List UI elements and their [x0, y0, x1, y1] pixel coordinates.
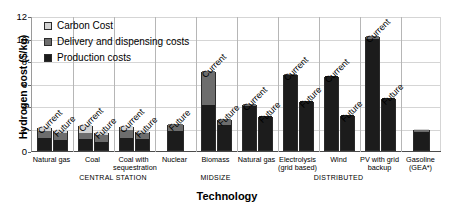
x-axis-title: Technology — [0, 190, 454, 202]
segment-production — [325, 76, 338, 150]
y-tick-label-10: 10 — [8, 35, 27, 44]
segment-production — [38, 138, 51, 150]
category-separator — [196, 17, 197, 152]
legend-item-carbon: Carbon Cost — [44, 20, 189, 31]
group-label-distributed: DISTRIBUTED — [236, 174, 441, 181]
segment-production — [284, 75, 297, 150]
production-swatch-icon — [44, 54, 52, 62]
category-separator — [278, 17, 279, 152]
bar-wind-current — [324, 77, 339, 151]
category-separator — [237, 17, 238, 152]
segment-carbon — [414, 129, 429, 130]
legend-item-delivery: Delivery and dispensing costs — [44, 36, 189, 47]
category-label-line1: Natural gas — [236, 156, 277, 164]
category-label-line1: Coal — [72, 156, 113, 164]
category-label-biomass: Biomass — [195, 156, 236, 164]
category-label-line2: sequestration — [113, 164, 154, 172]
segment-production — [136, 139, 149, 150]
y-tick-label-2: 2 — [8, 125, 27, 134]
legend: Carbon Cost Delivery and dispensing cost… — [44, 20, 189, 68]
category-label-coal: Coal — [72, 156, 113, 164]
bar-gasoline-gea- — [413, 130, 430, 151]
category-separator — [360, 17, 361, 152]
bar-pv-with-grid-backup-current — [365, 37, 380, 151]
legend-label-carbon: Carbon Cost — [57, 20, 113, 31]
category-label-line2: backup — [359, 164, 400, 172]
segment-production — [79, 139, 92, 150]
bar-biomass-current — [201, 72, 216, 151]
category-label-natural-gas: Natural gas — [236, 156, 277, 164]
bar-pv-with-grid-backup-future — [381, 99, 396, 151]
segment-production — [202, 105, 215, 150]
y-tick-mark-0 — [28, 152, 31, 153]
segment-production — [54, 140, 67, 150]
legend-item-production: Production costs — [44, 52, 189, 63]
hydrogen-cost-chart: Hydrogen cost ($/kg) 024681012 CurrentFu… — [0, 0, 454, 209]
category-label-electrolysis: Electrolysis(grid based) — [277, 156, 318, 172]
category-separator — [319, 17, 320, 152]
category-label-line2: (grid based) — [277, 164, 318, 172]
segment-production — [243, 106, 256, 150]
segment-production — [120, 138, 133, 150]
y-tick-label-4: 4 — [8, 102, 27, 111]
legend-label-production: Production costs — [57, 52, 131, 63]
segment-production — [382, 98, 395, 150]
legend-label-delivery: Delivery and dispensing costs — [57, 36, 189, 47]
bar-electrolysis-grid-based--current — [283, 75, 298, 152]
segment-production — [218, 125, 231, 150]
group-label-central-station: CENTRAL STATION — [31, 174, 195, 181]
y-tick-label-0: 0 — [8, 147, 27, 156]
segment-production — [366, 39, 379, 150]
segment-production — [414, 132, 429, 150]
category-label-wind: Wind — [318, 156, 359, 164]
category-label-line1: Natural gas — [31, 156, 72, 164]
category-label-line1: Biomass — [195, 156, 236, 164]
bar-natural-gas-current — [242, 105, 257, 151]
category-label-line1: Nuclear — [154, 156, 195, 164]
category-label-coal-with: Coal withsequestration — [113, 156, 154, 172]
category-label-pv-with-grid: PV with gridbackup — [359, 156, 400, 172]
segment-delivery — [414, 130, 429, 132]
segment-production — [168, 131, 183, 150]
group-label-midsize: MIDSIZE — [195, 174, 236, 181]
category-label-gasoline: Gasoline(GEA*) — [400, 156, 441, 172]
category-label-nuclear: Nuclear — [154, 156, 195, 164]
category-label-line1: Wind — [318, 156, 359, 164]
delivery-swatch-icon — [44, 38, 52, 46]
y-tick-label-12: 12 — [8, 12, 27, 21]
category-label-natural-gas: Natural gas — [31, 156, 72, 164]
y-tick-label-8: 8 — [8, 57, 27, 66]
carbon-swatch-icon — [44, 22, 52, 30]
category-label-line2: (GEA*) — [400, 164, 441, 172]
segment-production — [95, 142, 108, 150]
segment-delivery — [79, 133, 92, 140]
bar-electrolysis-grid-based--future — [299, 102, 314, 152]
y-tick-label-6: 6 — [8, 80, 27, 89]
